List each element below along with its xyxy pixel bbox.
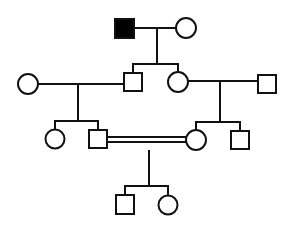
- pedigree-chart: [0, 0, 291, 234]
- sibship-line-III-right: [196, 122, 240, 131]
- individual-III-3-female: [186, 130, 206, 150]
- individual-IV-1-male: [116, 195, 134, 214]
- individual-II-1-female: [18, 74, 38, 94]
- individual-II-2-male: [124, 73, 142, 91]
- individual-III-1-female: [46, 130, 65, 149]
- individual-I-1-affected-male: [115, 19, 134, 38]
- individual-II-3-female: [168, 72, 188, 92]
- individual-III-4-male: [231, 131, 249, 149]
- individual-IV-2-female: [159, 196, 178, 215]
- sibship-line-IV: [125, 186, 168, 195]
- sibship-line-III-left: [55, 121, 98, 130]
- sibship-line-II: [133, 64, 178, 73]
- individual-I-2-female: [176, 18, 196, 38]
- individual-III-2-male: [89, 130, 107, 148]
- individual-II-4-male: [258, 75, 276, 93]
